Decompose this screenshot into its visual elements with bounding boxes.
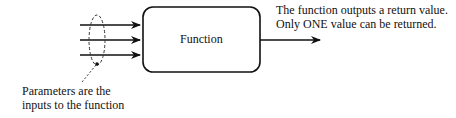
leader-line	[82, 65, 96, 82]
params-note-line-2: inputs to the function	[22, 98, 124, 112]
output-note-line-1: The function outputs a return value.	[276, 3, 448, 17]
params-note-line-1: Parameters are the	[22, 84, 111, 98]
output-note-line-2: Only ONE value can be returned.	[276, 17, 437, 31]
function-label: Function	[180, 32, 223, 46]
